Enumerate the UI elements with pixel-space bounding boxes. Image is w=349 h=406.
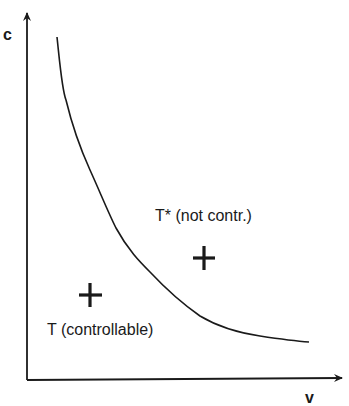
y-axis-label: c <box>3 27 12 43</box>
controllability-diagram <box>0 0 349 406</box>
t-star-cross-icon <box>193 246 215 270</box>
x-axis <box>27 378 342 380</box>
region-label-t-star: T* (not contr.) <box>155 208 252 224</box>
x-axis-label: v <box>305 390 314 406</box>
t-cross-icon <box>79 283 102 307</box>
region-label-t: T (controllable) <box>47 322 153 338</box>
